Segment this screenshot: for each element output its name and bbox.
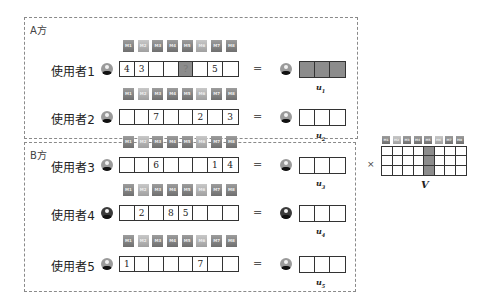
user-latent-vector [299, 157, 346, 174]
movie-poster-icon: M8 [226, 88, 237, 100]
movie-poster-icon: M4 [167, 184, 178, 196]
rating-cell: 4 [223, 158, 238, 172]
rating-cell [193, 158, 208, 172]
movie-poster-icon: M6 [435, 136, 443, 144]
rating-cell: 7 [149, 110, 164, 124]
latent-cell [300, 158, 315, 173]
user-vector-label: u5 [316, 277, 325, 289]
movie-poster-icon: M7 [211, 136, 222, 148]
latent-cell [300, 257, 315, 272]
movie-poster-icon: M8 [226, 40, 237, 52]
avatar-icon [280, 258, 292, 270]
latent-cell [330, 158, 345, 173]
avatar-icon [101, 159, 113, 171]
rating-cell [193, 62, 208, 76]
rating-cell [135, 158, 150, 172]
party-a-label: A方 [30, 22, 47, 37]
movie-tiles: M1M2M3M4M5M6M7M8 [123, 136, 241, 148]
matrix-cell [424, 147, 435, 156]
movie-poster-icon: M2 [138, 88, 149, 100]
rating-cell [149, 206, 164, 220]
matrix-cell [414, 147, 425, 156]
movie-poster-icon: M4 [167, 40, 178, 52]
user-latent-vector [299, 256, 346, 273]
movie-poster-icon: M3 [403, 136, 411, 144]
equals-sign: = [253, 158, 262, 171]
movie-tiles: M1M2M3M4M5M6M7M8 [123, 88, 241, 100]
matrix-cell [414, 156, 425, 165]
avatar-icon [280, 63, 292, 75]
latent-cell [330, 206, 345, 221]
movie-poster-icon: M6 [196, 88, 207, 100]
user-vector-subscript: 4 [322, 232, 325, 238]
rating-cell: 2 [193, 110, 208, 124]
rating-cell [120, 206, 135, 220]
matrix-cell [393, 166, 404, 175]
rating-cell [120, 158, 135, 172]
matrix-cell [456, 166, 467, 175]
rating-cell [120, 110, 135, 124]
user-latent-vector [299, 109, 346, 126]
user-label: 使用者5 [40, 257, 95, 274]
avatar-icon [280, 207, 292, 219]
rating-cell: 5 [179, 206, 194, 220]
movie-poster-icon: M2 [138, 184, 149, 196]
movie-poster-icon: M2 [138, 40, 149, 52]
matrix-cell [403, 156, 414, 165]
user-latent-vector [299, 61, 346, 78]
movie-poster-icon: M8 [226, 184, 237, 196]
rating-cell: 2 [135, 206, 150, 220]
movie-poster-icon: M1 [123, 136, 134, 148]
matrix-cell [424, 156, 435, 165]
rating-cell [193, 206, 208, 220]
matrix-cell [403, 147, 414, 156]
avatar-icon [101, 111, 113, 123]
rating-cell [179, 158, 194, 172]
matrix-cell [393, 147, 404, 156]
matrix-cell [382, 166, 393, 175]
rating-cell: ? [179, 62, 194, 76]
movie-poster-icon: M3 [152, 136, 163, 148]
user-label: 使用者2 [40, 110, 95, 127]
rating-cell: 3 [135, 62, 150, 76]
movie-poster-icon: M8 [226, 136, 237, 148]
user-vector-subscript: 2 [322, 136, 325, 142]
rating-cell: 5 [208, 62, 223, 76]
matrix-cell [435, 147, 446, 156]
movie-poster-icon: M2 [138, 136, 149, 148]
equals-sign: = [253, 206, 262, 219]
rating-vector: 43?5 [119, 61, 239, 77]
multiply-sign: × [367, 159, 375, 169]
movie-poster-icon: M7 [445, 136, 453, 144]
rating-cell [164, 257, 179, 271]
user-latent-vector [299, 205, 346, 222]
rating-vector: 285 [119, 205, 239, 221]
equals-sign: = [253, 110, 262, 123]
rating-vector: 723 [119, 109, 239, 125]
rating-cell: 7 [193, 257, 208, 271]
matrix-cell [445, 147, 456, 156]
rating-cell: 8 [164, 206, 179, 220]
equals-sign: = [253, 62, 262, 75]
movie-poster-icon: M1 [123, 235, 134, 247]
movie-poster-icon: M4 [167, 136, 178, 148]
latent-cell [330, 62, 345, 77]
latent-cell [300, 62, 315, 77]
avatar-icon [101, 258, 113, 270]
movie-poster-icon: M3 [152, 88, 163, 100]
user-vector-label: u4 [316, 226, 325, 238]
movie-poster-icon: M7 [211, 235, 222, 247]
matrix-cell [414, 166, 425, 175]
movie-poster-icon: M3 [152, 235, 163, 247]
avatar-icon [101, 63, 113, 75]
latent-cell [330, 257, 345, 272]
rating-cell [149, 62, 164, 76]
user-vector-label: u1 [316, 82, 325, 94]
user-vector-subscript: 1 [322, 88, 325, 94]
matrix-cell [445, 156, 456, 165]
latent-cell [315, 158, 330, 173]
rating-cell [135, 257, 150, 271]
rating-cell: 3 [223, 110, 238, 124]
matrix-cell [382, 147, 393, 156]
movie-poster-icon: M6 [196, 40, 207, 52]
